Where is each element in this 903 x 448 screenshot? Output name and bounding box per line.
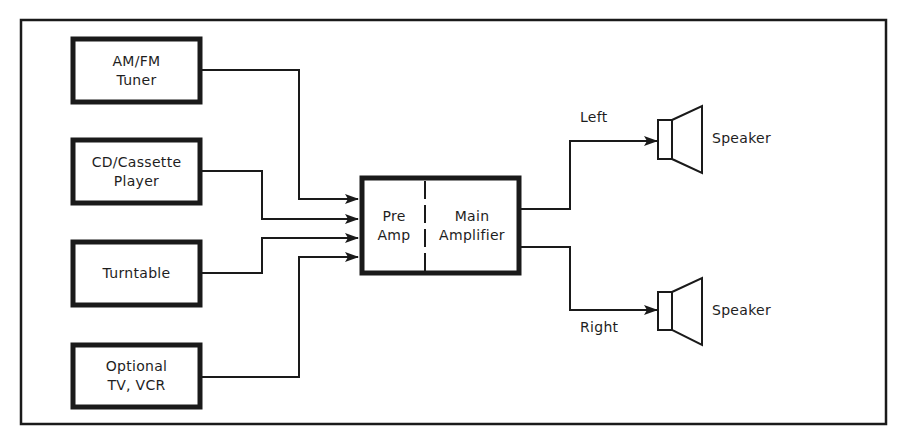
optional-line2: TV, VCR — [107, 376, 165, 395]
cd-cassette-line2: Player — [114, 172, 159, 191]
turntable-label: Turntable — [73, 242, 200, 305]
cd-cassette-line1: CD/Cassette — [92, 153, 182, 172]
speaker-left-label: Speaker — [712, 129, 771, 148]
main-amp-line1: Main — [455, 207, 490, 226]
connector-am-fm — [202, 70, 358, 199]
pre-amp-line2: Amp — [377, 226, 410, 245]
pre-amp-line1: Pre — [382, 207, 405, 226]
connector-cd-cassette — [202, 171, 358, 219]
speaker-right-label: Speaker — [712, 301, 771, 320]
connector-turntable — [202, 238, 358, 273]
right-channel-label: Right — [580, 318, 618, 337]
am-fm-line2: Tuner — [116, 71, 156, 90]
am-fm-line1: AM/FM — [112, 52, 160, 71]
optional-line1: Optional — [106, 357, 168, 376]
pre-amp-label: Pre Amp — [364, 180, 424, 271]
optional-tv-vcr-label: Optional TV, VCR — [73, 345, 200, 407]
main-amplifier-label: Main Amplifier — [427, 180, 517, 271]
turntable-line1: Turntable — [103, 264, 171, 283]
speaker-left-icon — [658, 106, 702, 173]
left-channel-label: Left — [580, 108, 608, 127]
main-amp-line2: Amplifier — [439, 226, 505, 245]
connector-optional — [202, 257, 358, 377]
speaker-right-icon — [658, 278, 702, 345]
cd-cassette-player-label: CD/Cassette Player — [73, 140, 200, 203]
connector-right — [521, 247, 657, 310]
connector-left — [521, 141, 657, 209]
am-fm-tuner-label: AM/FM Tuner — [73, 39, 200, 102]
